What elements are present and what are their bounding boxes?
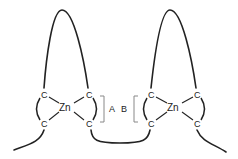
carbon-atom: C [41, 90, 48, 100]
carbon-atom: C [194, 119, 201, 129]
bond [182, 97, 193, 103]
bond [156, 112, 167, 120]
right-tail-chain [197, 130, 226, 152]
bond [49, 97, 59, 103]
bond [49, 112, 59, 120]
right-loop-chain [151, 10, 196, 88]
carbon-atom: C [148, 90, 155, 100]
bond [74, 112, 84, 120]
label-b: B [121, 104, 127, 114]
right-zinc-complex: C C C C Zn [144, 90, 205, 129]
bond [74, 97, 84, 103]
carbon-atom: C [41, 119, 48, 129]
bracket-b [134, 96, 138, 122]
carbon-atom: C [86, 90, 93, 100]
left-zinc-complex: C C C C Zn [37, 90, 97, 129]
bond [182, 112, 193, 120]
label-a: A [109, 104, 115, 114]
right-inner-arc [201, 98, 205, 120]
left-loop-chain [44, 10, 88, 88]
zinc-complex-diagram: C C C C Zn A B C C C C Zn [0, 0, 238, 159]
bond [156, 97, 167, 103]
zinc-atom: Zn [59, 102, 71, 113]
carbon-atom: C [148, 119, 155, 129]
bracket-a [100, 96, 104, 122]
left-inner-arc [93, 98, 97, 120]
right-outer-arc [144, 98, 148, 120]
left-outer-arc [37, 98, 41, 120]
carbon-atom: C [194, 90, 201, 100]
left-tail-chain [14, 130, 44, 150]
carbon-atom: C [86, 119, 93, 129]
bridge-chain [91, 130, 150, 143]
zinc-atom: Zn [167, 102, 179, 113]
